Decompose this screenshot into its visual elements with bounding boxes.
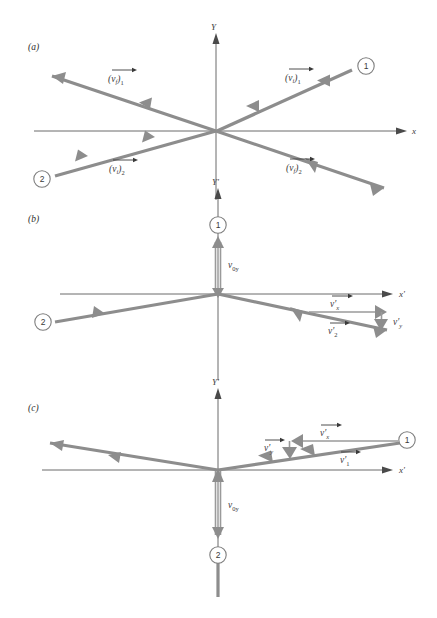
panel-b: 1 2 (b) x' Y' v0y v'x v'2 v'y [28, 177, 406, 380]
label-b-vxprime: v'x [330, 294, 353, 311]
label-vf2-text: (vf)2 [286, 163, 302, 175]
label-c-v0y: v0y [228, 500, 239, 512]
panel-a-y-axis-label: Y [211, 22, 217, 32]
vector-c-p1-outgoing [50, 440, 218, 470]
vector-b-p2-incoming [55, 294, 218, 322]
particle-2-number: 2 [216, 550, 221, 560]
label-vi1-text: (vi)1 [285, 73, 301, 85]
label-c-vyprime: v'y [264, 438, 285, 455]
label-c-vxprime-text: v'x [320, 428, 329, 440]
label-c-vxprime: v'x [320, 423, 342, 440]
label-vf1-text: (vf)1 [108, 74, 124, 86]
vector-b-v2prime [218, 294, 387, 338]
vector-vf1 [52, 72, 216, 131]
label-vf1: (vf)1 [108, 68, 137, 86]
panel-a: 1 2 (a) x Y (vf)1 (vi)1 (vi)2 [28, 22, 416, 200]
vector-vi2 [55, 131, 216, 177]
panel-a-label: (a) [28, 42, 39, 53]
particle-1-number: 1 [405, 435, 410, 445]
panel-b-x-axis-label: x' [398, 289, 406, 299]
panel-b-label: (b) [28, 214, 39, 225]
panel-c-label: (c) [28, 403, 39, 414]
particle-1-number: 1 [216, 220, 221, 230]
label-c-v1prime-text: v'1 [340, 455, 350, 467]
panel-c-x-axis-label: x' [398, 465, 406, 475]
vector-c-v1prime [218, 443, 400, 470]
label-b-vyprime: v'y [393, 317, 402, 329]
label-c-v1prime: v'1 [340, 450, 361, 467]
label-vi1: (vi)1 [285, 67, 314, 85]
particle-1-marker: 1 [358, 58, 374, 74]
label-vi2-text: (vi)2 [109, 164, 125, 176]
panel-a-y-axis [213, 33, 220, 200]
panel-a-x-axis-label: x [411, 126, 416, 136]
particle-2-marker: 2 [34, 171, 50, 187]
panel-b-y-axis-label: Y' [212, 177, 220, 187]
vector-vf2 [216, 131, 384, 196]
particle-1-marker: 1 [399, 432, 415, 448]
label-b-vxprime-text: v'x [330, 299, 339, 311]
label-b-v2prime-text: v'2 [328, 326, 338, 338]
label-b-v0y: v0y [228, 260, 239, 272]
label-c-vyprime-text: v'y [264, 443, 273, 455]
physics-figure: 1 2 (a) x Y (vf)1 (vi)1 (vi)2 [0, 0, 437, 618]
particle-2-marker: 2 [210, 547, 226, 563]
particle-1-marker: 1 [210, 217, 226, 233]
particle-2-number: 2 [40, 174, 45, 184]
label-b-v2prime: v'2 [328, 321, 350, 338]
particle-2-number: 2 [41, 317, 46, 327]
panel-c: 1 2 (c) x' Y' v0y v'x v'y v'1 [28, 377, 415, 597]
particle-2-marker: 2 [35, 314, 51, 330]
particle-1-number: 1 [364, 61, 369, 71]
vector-c-vyprime [282, 441, 297, 459]
panel-c-y-axis-label: Y' [212, 377, 220, 387]
